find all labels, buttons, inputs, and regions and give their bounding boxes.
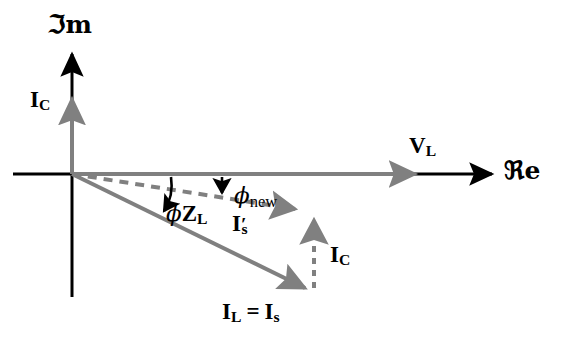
label-i-s-sub: s xyxy=(273,308,279,325)
label-i-c-vertical-sub: C xyxy=(339,251,350,268)
label-i-s-prime: I′s xyxy=(232,212,248,237)
label-i-s-prime-main: I xyxy=(232,211,241,236)
label-i-l-equals-sign: = xyxy=(246,299,259,324)
label-i-c-axis-sub: C xyxy=(39,96,50,113)
phasor-diagram-figure: ℑm ℜe IC VL ϕnew ϕZL I′s IC IL=Is xyxy=(0,0,561,347)
real-axis-label: ℜe xyxy=(504,158,541,183)
label-i-l-sub: L xyxy=(231,308,241,325)
label-phi-z-l: ϕZL xyxy=(166,202,207,227)
label-i-c-axis: IC xyxy=(30,88,50,113)
label-i-l-main: I xyxy=(222,299,231,324)
label-i-s-prime-sub: s xyxy=(241,220,247,237)
imaginary-axis-label: ℑm xyxy=(48,12,92,37)
label-phi-z-l-sub: L xyxy=(197,210,207,227)
label-i-c-vertical: IC xyxy=(330,243,350,268)
label-i-c-vertical-main: I xyxy=(330,242,339,267)
label-phi-z-l-main: Z xyxy=(182,201,197,226)
phasor-diagram-canvas xyxy=(0,0,561,347)
label-phi-new: ϕnew xyxy=(234,184,277,210)
label-i-c-axis-main: I xyxy=(30,87,39,112)
label-phi-new-sub: new xyxy=(250,192,278,211)
label-v-l-main: V xyxy=(409,133,426,158)
label-v-l: VL xyxy=(409,134,436,159)
label-v-l-sub: L xyxy=(426,142,436,159)
label-i-l-equals-i-s: IL=Is xyxy=(222,300,280,325)
label-phi-new-symbol: ϕ xyxy=(234,182,250,208)
label-phi-z-l-symbol: ϕ xyxy=(166,200,182,226)
